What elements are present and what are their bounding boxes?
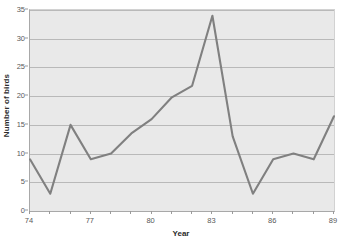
- x-axis-tick-mark: [110, 211, 111, 214]
- y-axis-tick-label: 30: [17, 33, 25, 42]
- x-axis-tick-mark: [333, 211, 334, 214]
- y-axis-tick-label: 20: [17, 91, 25, 100]
- x-axis-tick-mark: [90, 211, 91, 214]
- x-axis-tick-label: 86: [268, 216, 276, 225]
- series-polyline: [30, 16, 334, 194]
- x-axis-tick-mark: [232, 211, 233, 214]
- x-axis-title: Year: [28, 229, 334, 238]
- y-axis-title-text: Number of birds: [3, 73, 12, 136]
- y-axis-tick-mark: [25, 181, 28, 182]
- y-axis-tick-label: 35: [17, 5, 25, 14]
- x-axis-tick-label: 89: [329, 216, 337, 225]
- x-axis-tick-mark: [151, 211, 152, 214]
- y-axis-tick-mark: [25, 210, 28, 211]
- x-axis-tick-group: 747780838689: [29, 211, 333, 229]
- x-axis-tick-mark: [70, 211, 71, 214]
- data-series-birds: [30, 10, 334, 211]
- line-chart: Number of birds 05101520253035 747780838…: [0, 0, 342, 245]
- x-axis-tick-mark: [171, 211, 172, 214]
- x-axis-tick-label: 80: [146, 216, 154, 225]
- x-axis-tick-mark: [49, 211, 50, 214]
- y-axis-tick-label: 25: [17, 62, 25, 71]
- y-axis-tick-mark: [25, 9, 28, 10]
- x-axis-tick-mark: [211, 211, 212, 214]
- x-axis-tick-mark: [272, 211, 273, 214]
- x-axis-tick-mark: [191, 211, 192, 214]
- x-axis-tick-label: 83: [207, 216, 215, 225]
- y-axis-tick-mark: [25, 66, 28, 67]
- x-axis-tick-mark: [252, 211, 253, 214]
- x-axis-tick-mark: [313, 211, 314, 214]
- x-axis-tick-mark: [130, 211, 131, 214]
- x-axis-tick-label: 77: [86, 216, 94, 225]
- x-axis-tick-mark: [29, 211, 30, 214]
- y-axis-tick-label: 15: [17, 119, 25, 128]
- y-axis-tick-mark: [25, 152, 28, 153]
- plot-area: [29, 9, 335, 212]
- x-axis-tick-label: 74: [25, 216, 33, 225]
- x-axis-tick-mark: [292, 211, 293, 214]
- y-axis-tick-mark: [25, 37, 28, 38]
- y-axis-tick-group: 05101520253035: [12, 0, 28, 212]
- y-axis-tick-mark: [25, 95, 28, 96]
- y-axis-tick-label: 10: [17, 148, 25, 157]
- y-axis-tick-mark: [25, 123, 28, 124]
